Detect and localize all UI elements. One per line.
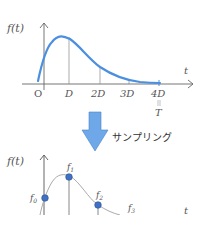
bottom-curve — [40, 175, 120, 215]
bottom-y-label: f(t) — [6, 155, 24, 168]
tick-label-2D: 2D — [90, 88, 105, 99]
sample-dot-f2 — [95, 202, 102, 209]
top-graph: f(t) t O D 2D 3D 4D T — [6, 22, 193, 118]
sample-label-f1: f1 — [66, 162, 74, 173]
tick-label-D: D — [64, 88, 73, 99]
bottom-x-label: t — [184, 205, 189, 215]
sample-label-f0: f0 — [29, 193, 37, 204]
origin-label: O — [34, 88, 42, 99]
top-curve — [38, 36, 160, 83]
sample-dot-f1 — [66, 174, 73, 181]
sample-dot-f0 — [42, 195, 49, 202]
T-label: T — [155, 107, 163, 118]
sample-label-f3: f3 — [127, 203, 135, 214]
sample-label-f2: f2 — [95, 190, 103, 201]
tick-label-3D: 3D — [120, 88, 134, 99]
down-arrow-icon — [82, 112, 108, 151]
top-y-label: f(t) — [6, 22, 24, 35]
bottom-graph: f(t) t f0 f1 f2 f3 — [6, 155, 189, 215]
top-x-label: t — [184, 65, 189, 76]
tick-label-4D: 4D — [150, 88, 165, 99]
sampling-label: サンプリング — [112, 131, 172, 143]
